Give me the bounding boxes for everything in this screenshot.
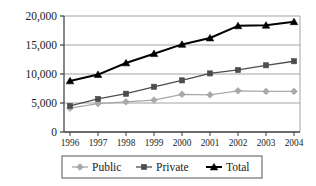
x-tick-label: 1996 <box>61 138 80 148</box>
x-tick-label: 1999 <box>145 138 164 148</box>
marker-square <box>235 67 240 72</box>
marker-square <box>67 103 72 108</box>
marker-square <box>151 84 156 89</box>
line-chart-svg: 05,00010,00015,00020,000 199619971998199… <box>0 0 316 186</box>
marker-square <box>291 59 296 64</box>
y-tick-label: 15,000 <box>25 39 57 52</box>
y-tick-label: 0 <box>51 126 57 138</box>
legend-label-public: Public <box>92 161 121 173</box>
marker-square <box>123 91 128 96</box>
x-tick-label: 2001 <box>201 138 220 148</box>
marker-square <box>141 164 146 169</box>
y-tick-label: 5,000 <box>31 97 57 110</box>
chart-figure: 05,00010,00015,00020,000 199619971998199… <box>0 0 316 186</box>
legend-label-total: Total <box>226 161 249 173</box>
marker-square <box>179 78 184 83</box>
x-tick-label: 2004 <box>285 138 304 148</box>
x-tick-label: 2000 <box>173 138 192 148</box>
legend-label-private: Private <box>156 161 189 173</box>
marker-square <box>263 63 268 68</box>
x-tick-label: 2002 <box>229 138 248 148</box>
x-tick-label: 2003 <box>257 138 276 148</box>
y-tick-label: 10,000 <box>25 68 57 81</box>
marker-square <box>95 96 100 101</box>
chart-legend: PublicPrivateTotal <box>62 156 262 178</box>
x-tick-label: 1998 <box>117 138 136 148</box>
x-tick-label: 1997 <box>89 138 108 148</box>
marker-square <box>207 71 212 76</box>
x-tick-labels: 199619971998199920002001200220032004 <box>61 138 304 148</box>
y-tick-label: 20,000 <box>25 10 57 23</box>
